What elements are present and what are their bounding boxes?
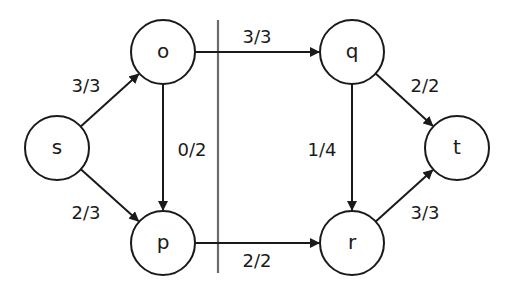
edge-labels: 3/32/30/23/32/21/42/23/3 [72,26,440,271]
edge-label-o-p: 0/2 [178,139,207,160]
node-q: q [320,20,384,84]
edge-label-q-r: 1/4 [308,139,337,160]
edge-label-p-r: 2/2 [243,250,272,271]
node-label: t [453,135,461,159]
node-t: t [425,116,489,180]
node-label: q [346,39,359,63]
edge-label-s-o: 3/3 [72,75,101,96]
edge-label-q-t: 2/2 [411,75,440,96]
nodes: sopqrt [25,20,489,275]
node-p: p [131,211,195,275]
edge-label-o-q: 3/3 [243,26,272,47]
node-label: p [157,230,170,254]
node-o: o [131,20,195,84]
edge-label-r-t: 3/3 [411,202,440,223]
edge-label-s-p: 2/3 [72,202,101,223]
flow-network-diagram: sopqrt 3/32/30/23/32/21/42/23/3 [0,0,510,290]
node-s: s [25,116,89,180]
node-label: s [52,135,62,159]
node-label: r [348,230,357,254]
node-label: o [157,39,169,63]
edges [81,52,433,243]
node-r: r [320,211,384,275]
